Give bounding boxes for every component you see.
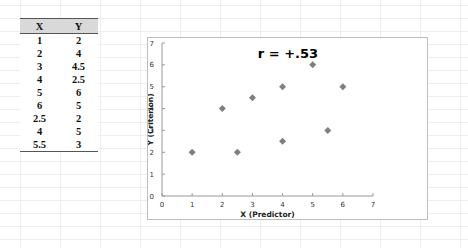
cell-y: 2 [59,113,98,124]
table-row: 24 [20,47,98,60]
table-row: 5.53 [20,138,98,151]
cell-y: 5 [59,126,98,137]
data-point-marker [324,127,331,134]
data-point-marker [249,94,256,101]
plot-area: 0123456701234567r = +.53X (Predictor)Y (… [148,38,429,221]
table-header: X Y [20,19,98,34]
table-row: 42.5 [20,73,98,86]
cell-y: 4.5 [59,61,98,72]
x-tick-label: 0 [160,201,164,209]
data-point-marker [234,149,241,156]
data-point-marker [279,138,286,145]
cell-x: 6 [20,100,59,111]
table-row: 45 [20,125,98,138]
cell-x: 1 [20,35,59,46]
x-tick-label: 2 [220,201,224,209]
cell-y: 2.5 [59,74,98,85]
scatter-chart[interactable]: 0123456701234567r = +.53X (Predictor)Y (… [147,37,428,220]
cell-x: 4 [20,74,59,85]
cell-y: 4 [59,48,98,59]
table-row: 12 [20,34,98,47]
x-axis-title: X (Predictor) [240,210,294,219]
cell-x: 3 [20,61,59,72]
header-y: Y [59,21,98,32]
chart-title: r = +.53 [258,46,318,61]
data-table: X Y 122434.542.556652.52455.53 [20,18,98,152]
table-row: 56 [20,86,98,99]
data-point-marker [309,61,316,68]
cell-y: 6 [59,87,98,98]
table-row: 65 [20,99,98,112]
y-tick-label: 5 [150,83,154,91]
cell-x: 2 [20,48,59,59]
y-tick-label: 1 [150,171,154,179]
cell-x: 5 [20,87,59,98]
cell-y: 2 [59,35,98,46]
x-tick-label: 5 [310,201,314,209]
x-tick-label: 3 [250,201,254,209]
table-row: 2.52 [20,112,98,125]
x-tick-label: 6 [341,201,346,209]
data-point-marker [279,83,286,90]
x-tick-label: 4 [280,201,285,209]
x-tick-label: 7 [371,201,375,209]
cell-y: 3 [59,139,98,150]
data-point-marker [219,105,226,112]
data-point-marker [189,149,196,156]
table-row: 34.5 [20,60,98,73]
header-x: X [20,21,59,32]
cell-x: 4 [20,126,59,137]
cell-x: 2.5 [20,113,59,124]
y-tick-label: 2 [150,149,154,157]
table-body: 122434.542.556652.52455.53 [20,34,98,151]
x-tick-label: 1 [190,201,194,209]
y-tick-label: 0 [150,193,154,201]
cell-x: 5.5 [20,139,59,150]
y-tick-label: 7 [150,40,154,48]
y-tick-label: 6 [150,61,155,69]
y-axis-title: Y (Criterion) [148,93,155,146]
data-point-marker [339,83,346,90]
cell-y: 5 [59,100,98,111]
